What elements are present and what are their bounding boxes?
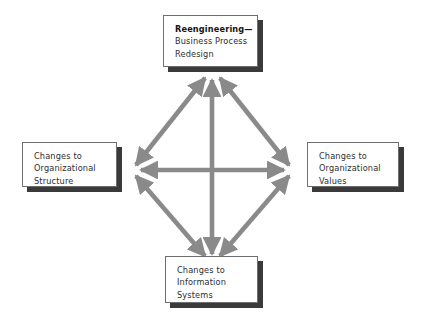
node-values-line-2: Organizational [319, 162, 389, 174]
node-structure-line-1: Changes to [34, 150, 107, 162]
node-changes-to-information-systems[interactable]: Changes to Information Systems [165, 256, 258, 303]
diagram-canvas: Reengineering— Business Process Redesign… [0, 0, 422, 320]
node-structure-line-2: Organizational [34, 162, 107, 174]
node-structure-line-3: Structure [34, 175, 107, 187]
node-values-line-1: Changes to [319, 150, 389, 162]
node-reengineering[interactable]: Reengineering— Business Process Redesign [163, 15, 258, 67]
connector-reengineering-to-values [220, 78, 289, 165]
node-values-line-3: Values [319, 175, 389, 187]
node-information-line-2: Information [177, 276, 248, 288]
node-information-line-1: Changes to [177, 264, 248, 276]
node-changes-to-organizational-values[interactable]: Changes to Organizational Values [307, 142, 399, 187]
connector-structure-to-information [136, 176, 205, 256]
connector-values-to-information [220, 176, 289, 256]
node-information-line-3: Systems [177, 289, 248, 301]
node-changes-to-organizational-structure[interactable]: Changes to Organizational Structure [22, 142, 117, 187]
connector-reengineering-to-structure [136, 78, 205, 165]
node-reengineering-line-3: Redesign [175, 48, 248, 60]
node-reengineering-line-2: Business Process [175, 35, 248, 47]
node-reengineering-line-1: Reengineering— [175, 23, 248, 35]
